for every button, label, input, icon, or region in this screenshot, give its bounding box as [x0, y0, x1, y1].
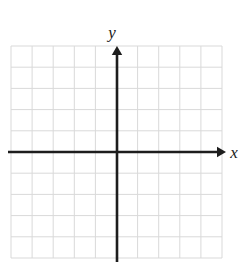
figure-background: [0, 0, 248, 270]
y-axis-label: y: [106, 23, 116, 42]
coordinate-grid-figure: x y: [0, 0, 248, 270]
x-axis-label: x: [229, 143, 238, 162]
coordinate-plane-canvas: x y: [0, 0, 248, 270]
